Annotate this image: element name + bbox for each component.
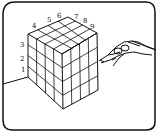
label-1: 1	[21, 66, 25, 74]
cube	[28, 17, 98, 109]
label-9: 9	[90, 23, 94, 31]
cube-diagram: 1 2 3 4 5 6 7 8 9	[0, 0, 158, 132]
label-6: 6	[57, 12, 62, 20]
pointing-hand	[99, 41, 156, 66]
label-7: 7	[74, 13, 78, 21]
label-4: 4	[32, 22, 37, 30]
label-3: 3	[20, 41, 24, 49]
label-8: 8	[83, 17, 87, 25]
label-2: 2	[20, 55, 24, 63]
floor-line	[3, 77, 28, 84]
label-5: 5	[47, 16, 51, 24]
frame-border	[3, 2, 155, 130]
